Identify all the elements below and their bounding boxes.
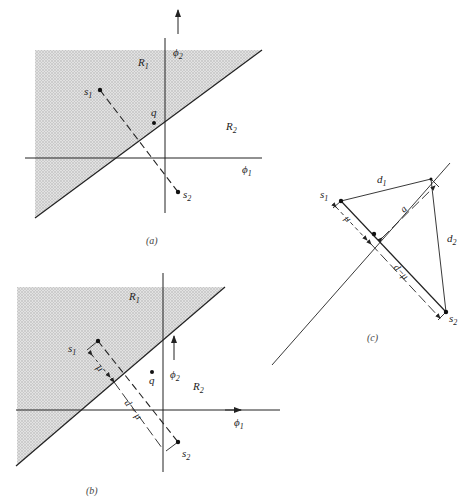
caption-b: (b) (86, 485, 98, 497)
point-s2 (444, 310, 448, 314)
label-s2: s2 (183, 188, 191, 203)
label-phi1: ϕ1 (234, 416, 244, 431)
label-s2: s2 (182, 447, 190, 462)
panel-c: s1 s2 d1 d2 a μ d−μ (c) (272, 163, 457, 365)
label-q: q (149, 374, 155, 386)
figure-canvas: R1 R2 ϕ2 ϕ1 s1 s2 q (a) R1 R2 ϕ2 ϕ1 s1 s… (0, 0, 474, 504)
label-phi2: ϕ2 (170, 368, 180, 383)
decision-boundary (272, 163, 450, 365)
label-r2: R2 (225, 120, 237, 135)
point-s2 (176, 440, 180, 444)
point-s2 (176, 190, 180, 194)
label-d-minus-mu: d − μ (122, 397, 144, 421)
segment-d2 (431, 179, 446, 312)
dimension-line-d-minus-mu (371, 244, 440, 318)
dimension-line-a (382, 186, 435, 238)
label-s2: s2 (449, 312, 457, 327)
point-q (152, 121, 156, 125)
point-s1 (339, 199, 343, 203)
tick-s2 (166, 442, 178, 451)
point-projection (372, 232, 376, 236)
label-d1: d1 (377, 173, 387, 188)
panel-b: R1 R2 ϕ2 ϕ1 s1 s2 q μ d − μ (b) (16, 273, 280, 497)
label-d-minus-mu: d−μ (392, 262, 411, 282)
label-mu: μ (342, 212, 354, 224)
label-q: q (151, 106, 157, 118)
label-s1: s1 (320, 188, 328, 203)
label-phi1: ϕ1 (242, 163, 252, 178)
caption-a: (a) (146, 235, 158, 247)
label-d2: d2 (447, 232, 457, 247)
point-boundary-top (430, 178, 433, 181)
segment-s1-s2 (341, 201, 446, 312)
caption-c: (c) (367, 332, 379, 344)
panel-a: R1 R2 ϕ2 ϕ1 s1 s2 q (a) (25, 10, 262, 247)
label-r2: R2 (192, 380, 204, 395)
point-s1 (98, 88, 102, 92)
point-s1 (96, 339, 100, 343)
